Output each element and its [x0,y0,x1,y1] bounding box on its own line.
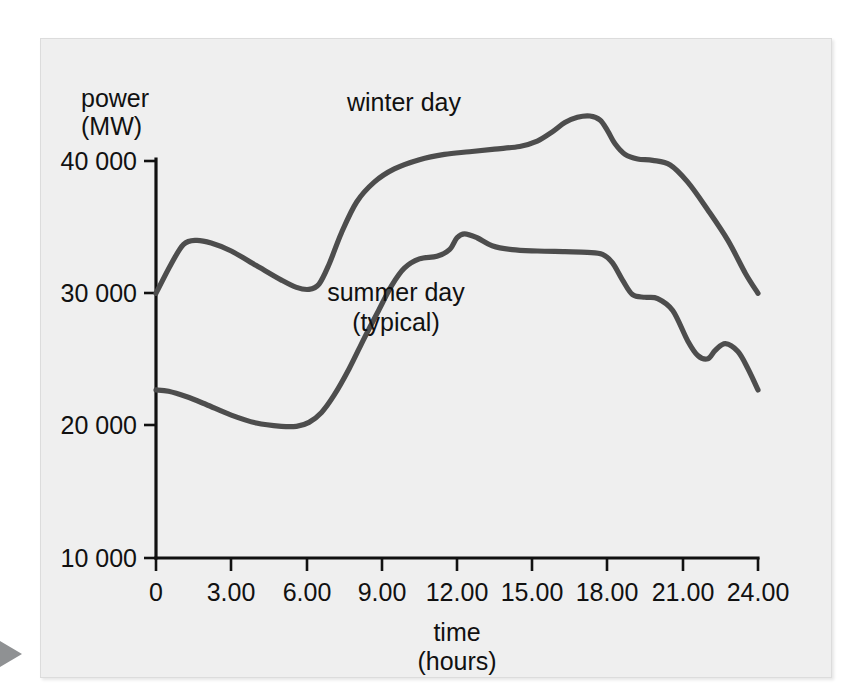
x-axis-ticks: 0 3.00 6.00 9.00 12.00 15.00 18.00 21.00… [149,558,789,606]
y-tick-label-20000: 20 000 [61,411,137,439]
summer-day-label-line1: summer day [327,278,465,306]
x-axis-title-line1: time [433,618,480,646]
y-axis-title-line1: power [81,84,149,112]
x-axis-title-line2: (hours) [417,647,496,675]
x-tick-label-21: 21.00 [652,578,715,606]
x-tick-label-9: 9.00 [358,578,407,606]
page-root: as andicated in such to furtherEdist. so… [0,0,865,700]
x-tick-label-24: 24.00 [727,578,790,606]
y-tick-label-40000: 40 000 [61,147,137,175]
y-tick-label-10000: 10 000 [61,544,137,572]
x-tick-label-18: 18.00 [576,578,639,606]
y-tick-label-30000: 30 000 [61,279,137,307]
winter-day-curve [156,116,758,293]
margin-triangle-marker [0,641,22,667]
power-demand-line-chart: 40 000 30 000 20 000 10 000 0 3.00 6.00 [41,39,833,679]
x-tick-label-0: 0 [149,578,163,606]
axes-group [156,159,758,558]
chart-panel: 40 000 30 000 20 000 10 000 0 3.00 6.00 [40,38,832,678]
x-tick-label-15: 15.00 [501,578,564,606]
x-tick-label-6: 6.00 [283,578,332,606]
y-axis-title-line2: (MW) [81,112,142,140]
summer-day-label-line2: (typical) [352,308,440,336]
winter-day-label: winter day [346,88,461,116]
x-tick-label-3: 3.00 [207,578,256,606]
summer-day-curve [156,234,758,427]
x-tick-label-12: 12.00 [426,578,489,606]
y-axis-ticks: 40 000 30 000 20 000 10 000 [61,147,156,572]
